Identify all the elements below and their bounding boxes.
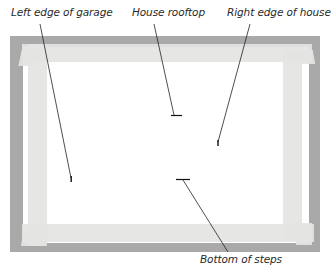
mark-right-edge-of-house bbox=[217, 140, 218, 146]
mark-left-edge-of-garage bbox=[71, 176, 72, 182]
leader-line-left-edge-of-garage bbox=[40, 24, 71, 178]
leader-line-house-rooftop bbox=[154, 24, 174, 115]
leader-line-bottom-of-steps bbox=[183, 180, 228, 252]
leader-line-right-edge-of-house bbox=[218, 24, 250, 142]
